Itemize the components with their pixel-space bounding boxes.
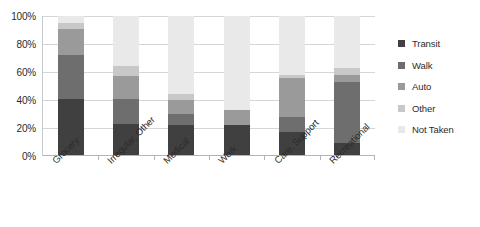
x-axis-labels: GroceryIrregular, OtherMedicalWorkCare, …	[42, 158, 375, 224]
bar-group[interactable]	[320, 16, 375, 156]
bar-segment[interactable]	[168, 114, 194, 125]
legend-label: Other	[412, 103, 435, 114]
bar-segment[interactable]	[224, 16, 250, 110]
chart-legend: TransitWalkAutoOtherNot Taken	[398, 33, 480, 141]
legend-label: Not Taken	[412, 124, 454, 135]
chart-title	[8, 0, 378, 3]
bar-segment[interactable]	[224, 110, 250, 125]
bar-group[interactable]	[98, 16, 153, 156]
y-axis-tick-label: 0%	[22, 151, 36, 162]
legend-label: Auto	[412, 81, 431, 92]
bar-segment[interactable]	[334, 68, 360, 75]
plot-area	[42, 16, 375, 156]
legend-item[interactable]: Not Taken	[398, 119, 480, 141]
stacked-bar-chart: 0%20%40%60%80%100% GroceryIrregular, Oth…	[0, 0, 480, 227]
legend-item[interactable]: Walk	[398, 55, 480, 77]
legend-swatch-icon	[398, 83, 405, 90]
legend-swatch-icon	[398, 126, 405, 133]
bar-segment[interactable]	[113, 16, 139, 66]
bar-segment[interactable]	[58, 55, 84, 98]
bar-segment[interactable]	[168, 16, 194, 94]
bar-segment[interactable]	[168, 100, 194, 114]
bar-group[interactable]	[209, 16, 264, 156]
bars-layer	[43, 16, 375, 156]
bar-group[interactable]	[264, 16, 319, 156]
bar-segment[interactable]	[334, 75, 360, 82]
bar-group[interactable]	[154, 16, 209, 156]
legend-item[interactable]: Transit	[398, 33, 480, 55]
bar-segment[interactable]	[58, 29, 84, 56]
y-axis-tick-label: 80%	[17, 39, 36, 50]
legend-swatch-icon	[398, 62, 405, 69]
bar-segment[interactable]	[279, 16, 305, 75]
bar-stack[interactable]	[58, 16, 84, 156]
bar-group[interactable]	[43, 16, 98, 156]
y-axis-tick-label: 40%	[17, 95, 36, 106]
bar-stack[interactable]	[168, 16, 194, 156]
legend-label: Walk	[412, 60, 432, 71]
bar-stack[interactable]	[224, 16, 250, 156]
bar-segment[interactable]	[113, 99, 139, 124]
legend-swatch-icon	[398, 40, 405, 47]
legend-label: Transit	[412, 38, 440, 49]
bar-segment[interactable]	[113, 76, 139, 98]
legend-item[interactable]: Other	[398, 98, 480, 120]
legend-swatch-icon	[398, 105, 405, 112]
y-axis-tick-label: 60%	[17, 67, 36, 78]
legend-item[interactable]: Auto	[398, 76, 480, 98]
y-axis: 0%20%40%60%80%100%	[0, 10, 40, 162]
bar-segment[interactable]	[334, 16, 360, 68]
bar-segment[interactable]	[113, 66, 139, 76]
y-axis-tick-label: 100%	[11, 11, 36, 22]
y-axis-tick-label: 20%	[17, 123, 36, 134]
bar-segment[interactable]	[279, 78, 305, 117]
bar-segment[interactable]	[58, 16, 84, 23]
